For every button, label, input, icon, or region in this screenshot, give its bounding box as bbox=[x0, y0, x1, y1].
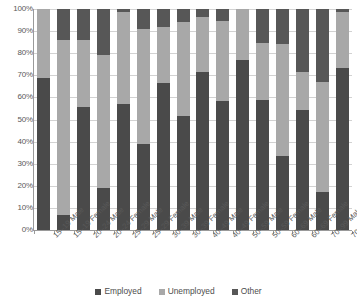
x-axis-label: 30–39 Male bbox=[171, 234, 177, 240]
legend-item[interactable]: Other bbox=[232, 287, 262, 296]
y-tick-label: 90% bbox=[4, 27, 33, 35]
bar-segment-unemployed[interactable] bbox=[57, 40, 70, 215]
square-swatch-icon bbox=[95, 289, 101, 295]
x-axis-label: 70–99 Female bbox=[350, 234, 356, 240]
legend-item[interactable]: Employed bbox=[95, 287, 141, 296]
bar-group[interactable] bbox=[296, 9, 309, 230]
bar-segment-other[interactable] bbox=[276, 9, 289, 44]
y-tick-label: 80% bbox=[4, 49, 33, 57]
legend-label: Unemployed bbox=[168, 287, 215, 296]
y-tick-label: 50% bbox=[4, 116, 33, 124]
bar-segment-other[interactable] bbox=[316, 9, 329, 82]
bar-segment-unemployed[interactable] bbox=[137, 29, 150, 144]
bar-group[interactable] bbox=[37, 9, 50, 230]
y-tick-label: 10% bbox=[4, 204, 33, 212]
bar-segment-unemployed[interactable] bbox=[256, 43, 269, 99]
bar-segment-unemployed[interactable] bbox=[117, 12, 130, 104]
bar-segment-other[interactable] bbox=[57, 9, 70, 40]
bar-segment-unemployed[interactable] bbox=[157, 27, 170, 83]
bar-segment-other[interactable] bbox=[157, 9, 170, 27]
bar-segment-other[interactable] bbox=[256, 9, 269, 43]
y-tick-label: 0% bbox=[4, 226, 33, 234]
bar-group[interactable] bbox=[276, 9, 289, 230]
bar-segment-employed[interactable] bbox=[37, 78, 50, 230]
bar-segment-other[interactable] bbox=[196, 9, 209, 17]
y-tick-label: 100% bbox=[4, 5, 33, 13]
x-axis-label: 60–69 Male bbox=[290, 234, 296, 240]
y-tick-label: 40% bbox=[4, 138, 33, 146]
x-axis-label: 25–29 Female bbox=[151, 234, 157, 240]
bar-group[interactable] bbox=[236, 9, 249, 230]
bar-segment-unemployed[interactable] bbox=[177, 22, 190, 116]
square-swatch-icon bbox=[232, 289, 238, 295]
bar-group[interactable] bbox=[77, 9, 90, 230]
square-swatch-icon bbox=[159, 289, 165, 295]
x-axis-label: 25–29 Male bbox=[131, 234, 137, 240]
bar-segment-unemployed[interactable] bbox=[37, 9, 50, 78]
bar-group[interactable] bbox=[97, 9, 110, 230]
legend-label: Employed bbox=[104, 287, 141, 296]
bar-segment-unemployed[interactable] bbox=[97, 55, 110, 188]
legend-item[interactable]: Unemployed bbox=[159, 287, 215, 296]
bar-segment-other[interactable] bbox=[97, 9, 110, 55]
bar-segment-unemployed[interactable] bbox=[316, 82, 329, 193]
bar-segment-unemployed[interactable] bbox=[196, 17, 209, 72]
bar-segment-unemployed[interactable] bbox=[236, 9, 249, 60]
bar-group[interactable] bbox=[336, 9, 349, 230]
bar-segment-unemployed[interactable] bbox=[216, 21, 229, 101]
x-axis-label: 40–49 Male bbox=[211, 234, 217, 240]
bar-group[interactable] bbox=[137, 9, 150, 230]
bar-group[interactable] bbox=[117, 9, 130, 230]
y-tick-label: 30% bbox=[4, 160, 33, 168]
x-axis-label: 70–99 Male bbox=[330, 234, 336, 240]
y-axis-tick-labels: 100%90%80%70%60%50%40%30%20%10%0% bbox=[0, 0, 33, 304]
bar-group[interactable] bbox=[196, 9, 209, 230]
bar-group[interactable] bbox=[177, 9, 190, 230]
bar-group[interactable] bbox=[57, 9, 70, 230]
x-axis-label: 15–19 Female bbox=[72, 234, 78, 240]
bar-segment-other[interactable] bbox=[177, 9, 190, 22]
bar-segment-other[interactable] bbox=[216, 9, 229, 21]
y-tick-label: 70% bbox=[4, 71, 33, 79]
bar-group[interactable] bbox=[216, 9, 229, 230]
bar-group[interactable] bbox=[316, 9, 329, 230]
bar-segment-other[interactable] bbox=[336, 9, 349, 12]
y-tick-label: 60% bbox=[4, 93, 33, 101]
bar-segment-other[interactable] bbox=[137, 9, 150, 29]
x-axis-label: 15–19 Male bbox=[52, 234, 58, 240]
plot-area bbox=[34, 9, 352, 230]
bar-segment-unemployed[interactable] bbox=[336, 12, 349, 67]
bar-segment-other[interactable] bbox=[296, 9, 309, 72]
bar-segment-unemployed[interactable] bbox=[77, 40, 90, 107]
x-axis-label: 20–24 Female bbox=[112, 234, 118, 240]
stacked-bar-chart: 100%90%80%70%60%50%40%30%20%10%0% 15–19 … bbox=[0, 0, 357, 304]
x-axis-label: 60–69 Female bbox=[310, 234, 316, 240]
bar-group[interactable] bbox=[256, 9, 269, 230]
bar-segment-other[interactable] bbox=[77, 9, 90, 40]
bar-segment-unemployed[interactable] bbox=[296, 72, 309, 110]
y-tick-label: 20% bbox=[4, 182, 33, 190]
x-axis-label: 30–39 Female bbox=[191, 234, 197, 240]
bar-segment-unemployed[interactable] bbox=[276, 44, 289, 156]
bar-group[interactable] bbox=[157, 9, 170, 230]
x-axis-label: 20–24 Male bbox=[92, 234, 98, 240]
legend-label: Other bbox=[241, 287, 262, 296]
x-axis-category-labels: 15–19 Male15–19 Female20–24 Male20–24 Fe… bbox=[34, 232, 352, 282]
bar-segment-other[interactable] bbox=[117, 9, 130, 12]
x-axis-label: 40–49 Female bbox=[231, 234, 237, 240]
chart-legend: EmployedUnemployedOther bbox=[0, 287, 357, 296]
x-axis-label: 50–59 Female bbox=[271, 234, 277, 240]
x-axis-label: 50–59 Male bbox=[251, 234, 257, 240]
